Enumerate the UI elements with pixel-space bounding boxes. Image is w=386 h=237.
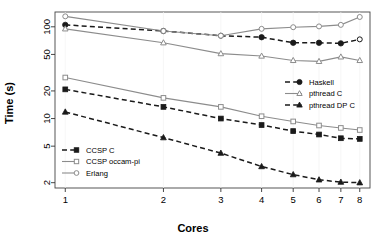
data-point-marker xyxy=(161,96,166,101)
data-point-marker xyxy=(339,126,344,131)
data-point-marker xyxy=(291,119,296,124)
data-point-marker xyxy=(291,129,296,134)
data-point-marker xyxy=(297,79,302,84)
x-tick-label: 7 xyxy=(338,194,343,205)
legend-label: CCSP C xyxy=(86,146,115,155)
data-point-marker xyxy=(161,29,166,34)
data-point-marker xyxy=(161,104,166,109)
data-point-marker xyxy=(218,116,223,121)
data-point-marker xyxy=(63,75,68,80)
y-tick-label: 50 xyxy=(42,49,53,60)
x-tick-label: 5 xyxy=(291,194,296,205)
legend-label: pthread DP C xyxy=(309,101,355,110)
performance-line-chart: 25102050100 12345678 CCSP CCCSP occam-pi… xyxy=(0,0,386,237)
data-point-marker xyxy=(63,87,68,92)
legend-label: pthread C xyxy=(309,89,343,98)
data-point-marker xyxy=(74,171,79,176)
data-point-marker xyxy=(317,24,322,29)
data-point-marker xyxy=(357,14,362,19)
y-tick-label: 10 xyxy=(42,113,53,124)
legend-label: Erlang xyxy=(86,169,108,178)
y-axis-title: Time (s) xyxy=(3,82,15,124)
data-point-marker xyxy=(259,114,264,119)
data-point-marker xyxy=(357,128,362,133)
data-point-marker xyxy=(290,40,295,45)
y-tick-label: 2 xyxy=(42,180,53,185)
x-tick-label: 4 xyxy=(259,194,264,205)
data-point-marker xyxy=(317,123,322,128)
y-tick-label: 20 xyxy=(42,86,53,97)
data-point-marker xyxy=(259,35,264,40)
legend-label: Haskell xyxy=(309,78,334,87)
x-tick-label: 3 xyxy=(218,194,223,205)
data-point-marker xyxy=(316,40,321,45)
data-point-marker xyxy=(357,137,362,142)
data-point-marker xyxy=(338,136,343,141)
data-point-marker xyxy=(74,148,79,153)
data-point-marker xyxy=(74,159,78,163)
data-point-marker xyxy=(259,26,264,31)
y-tick-label: 100 xyxy=(42,19,53,35)
data-point-marker xyxy=(259,123,264,128)
x-tick-label: 1 xyxy=(63,194,68,205)
x-axis-title: Cores xyxy=(177,222,208,234)
data-point-marker xyxy=(218,33,223,38)
data-point-marker xyxy=(357,37,362,42)
chart-container: 25102050100 12345678 CCSP CCCSP occam-pi… xyxy=(0,0,386,237)
data-point-marker xyxy=(317,132,322,137)
y-tick-label: 5 xyxy=(42,144,53,149)
data-point-marker xyxy=(291,25,296,30)
chart-background xyxy=(0,0,386,237)
data-point-marker xyxy=(338,41,343,46)
data-point-marker xyxy=(338,22,343,27)
data-point-marker xyxy=(219,105,224,110)
data-point-marker xyxy=(63,14,68,19)
legend-label: CCSP occam-pi xyxy=(86,157,140,166)
x-tick-label: 8 xyxy=(357,194,362,205)
x-tick-label: 6 xyxy=(316,194,321,205)
x-tick-label: 2 xyxy=(161,194,166,205)
